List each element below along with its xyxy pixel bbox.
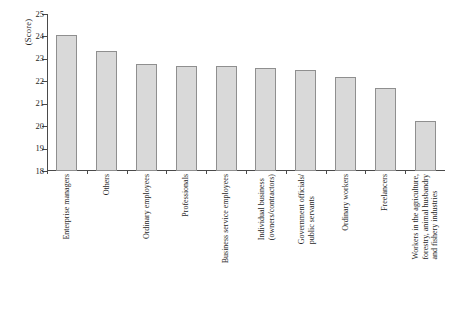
x-axis-label-line: Freelancers	[380, 174, 390, 211]
y-tick-label: 19	[36, 142, 45, 154]
y-tick-label: 21	[36, 97, 45, 109]
bar	[96, 51, 117, 171]
y-tick-label: 24	[36, 30, 45, 42]
bar	[56, 35, 77, 171]
x-axis-label-line: (owners/contractors)	[266, 174, 276, 240]
y-tick-label: 23	[36, 52, 45, 64]
x-axis-label-line: and fishery industries	[430, 191, 440, 260]
plot-area: 1819202122232425	[47, 14, 445, 171]
x-axis-label-line: Individual business	[256, 178, 266, 240]
x-axis-label-line: Others	[102, 174, 112, 195]
x-axis-label-line: Workers in the agriculture,	[411, 174, 421, 260]
x-axis-label-line: public servants	[306, 196, 316, 244]
y-tick-label: 18	[36, 165, 45, 177]
x-axis-label-line: Ordinary workers	[341, 174, 351, 231]
bar	[176, 66, 197, 171]
bar-chart: (Score) 1819202122232425 Enterprise mana…	[0, 0, 457, 309]
y-tick-label: 25	[36, 8, 45, 20]
bar	[295, 70, 316, 171]
bar	[375, 88, 396, 171]
bar	[415, 121, 436, 171]
x-axis-label-line: forestry, animal husbandry	[420, 174, 430, 259]
x-axis-label-line: Business service employees	[221, 174, 231, 263]
bars-layer	[47, 14, 445, 171]
bar	[335, 77, 356, 171]
x-axis-label-line: Ordinary employees	[142, 174, 152, 239]
y-tick-label: 20	[36, 120, 45, 132]
bar	[136, 64, 157, 171]
x-axis-labels: Enterprise managersOthersOrdinary employ…	[47, 174, 445, 306]
x-axis-label-line: Professionals	[181, 174, 191, 217]
y-tick-label: 22	[36, 75, 45, 87]
bar	[255, 68, 276, 171]
bar	[216, 66, 237, 171]
x-axis-label-line: Government officials/	[296, 174, 306, 244]
x-axis-label-line: Enterprise managers	[62, 174, 72, 240]
y-axis-title: (Score)	[23, 3, 33, 61]
